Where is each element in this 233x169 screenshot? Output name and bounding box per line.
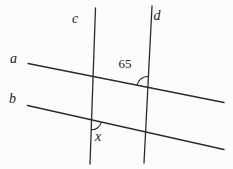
geometry-diagram: a b c d 65 x [0,0,233,169]
line-a-label: a [10,51,17,66]
transversal-d-label: d [154,8,162,23]
angle-x-label: x [94,129,102,144]
angle-65-label: 65 [119,56,132,71]
line-b [28,106,225,150]
angle-65-arc [137,76,148,85]
line-b-label: b [9,91,16,106]
transversal-c-label: c [72,11,79,26]
diagram-canvas: a b c d 65 x [0,0,233,169]
transversal-line-d [144,6,152,163]
